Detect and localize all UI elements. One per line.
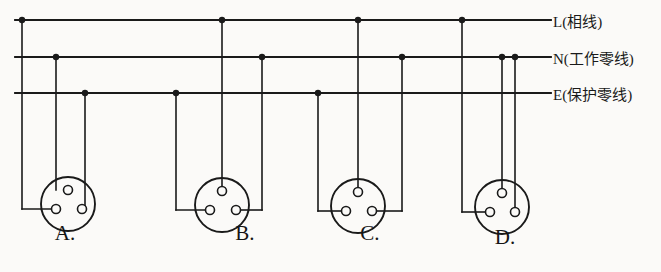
wire-B-E-0 <box>176 93 210 210</box>
sockets-group <box>22 20 529 234</box>
socket-D-top-hole[interactable] <box>498 189 507 198</box>
socket-option-D[interactable] <box>462 20 529 234</box>
diagram-canvas <box>0 0 661 272</box>
socket-D-bottom-left-hole[interactable] <box>486 208 495 217</box>
socket-B-bottom-left-hole[interactable] <box>206 206 215 215</box>
socket-A-top-hole[interactable] <box>64 186 73 195</box>
socket-C-top-hole[interactable] <box>354 188 363 197</box>
junction-dot-C-N <box>399 54 405 60</box>
bus-label-L: L(相线) <box>553 10 602 31</box>
junction-dot-A-L <box>19 17 25 23</box>
bus-label-E: E(保护零线) <box>553 83 632 104</box>
socket-option-B[interactable] <box>176 20 262 232</box>
junction-dot-A-E <box>82 90 88 96</box>
junction-dot-D-L <box>459 17 465 23</box>
wire-C-N-2 <box>372 57 402 211</box>
option-label-D: D. <box>495 225 515 250</box>
option-label-B: B. <box>235 221 254 246</box>
socket-D-bottom-right-hole[interactable] <box>511 208 520 217</box>
junction-dot-C-L <box>355 17 361 23</box>
bus-lines-group <box>15 20 551 93</box>
socket-B-bottom-right-hole[interactable] <box>232 206 241 215</box>
wire-B-N-2 <box>236 57 262 210</box>
wire-C-E-0 <box>318 93 346 211</box>
option-label-C: C. <box>360 221 379 246</box>
junction-dot-A-N <box>53 54 59 60</box>
junction-dot-D-N <box>499 54 505 60</box>
junction-dot-B-N <box>259 54 265 60</box>
junction-dot-D-N <box>512 54 518 60</box>
junction-dot-B-E <box>173 90 179 96</box>
option-label-A: A. <box>55 221 75 246</box>
socket-B-top-hole[interactable] <box>218 187 227 196</box>
wiring-diagram-figure: L(相线)N(工作零线)E(保护零线) A.B.C.D. <box>0 0 661 272</box>
wire-A-E-2 <box>82 93 85 209</box>
wire-D-L-0 <box>462 20 490 212</box>
socket-option-C[interactable] <box>318 20 402 233</box>
junction-dot-B-L <box>219 17 225 23</box>
wire-A-L-0 <box>22 20 56 209</box>
socket-C-bottom-left-hole[interactable] <box>342 207 351 216</box>
socket-C-bottom-right-hole[interactable] <box>368 207 377 216</box>
bus-label-N: N(工作零线) <box>553 47 634 68</box>
socket-A-bottom-left-hole[interactable] <box>52 205 61 214</box>
junction-dot-C-E <box>315 90 321 96</box>
socket-A-bottom-right-hole[interactable] <box>78 205 87 214</box>
socket-option-A[interactable] <box>22 20 95 231</box>
